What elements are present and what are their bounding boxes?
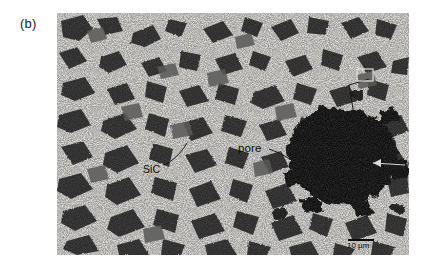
micrograph-image: SiC pore 10 µm xyxy=(57,13,409,255)
annotation-sic: SiC xyxy=(143,163,160,175)
panel-label: (b) xyxy=(20,16,37,31)
figure-panel-b: (b) xyxy=(0,0,430,277)
annotation-pore: pore xyxy=(238,142,261,154)
scale-bar-label: 10 µm xyxy=(347,241,369,250)
micrograph-canvas xyxy=(57,13,409,255)
